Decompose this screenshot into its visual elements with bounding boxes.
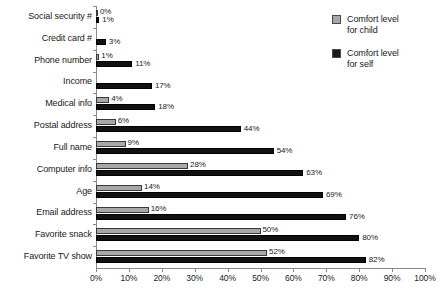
- bar-self: [96, 83, 152, 89]
- bar-value-label-child: 52%: [269, 247, 285, 256]
- x-axis-tick: [195, 269, 196, 272]
- bar-value-label-self: 18%: [158, 102, 174, 111]
- x-axis-tick: [326, 269, 327, 272]
- y-axis-category-label: Phone number: [0, 55, 92, 66]
- bar-self: [96, 126, 241, 132]
- x-axis-tick: [425, 269, 426, 272]
- bar-child: [96, 207, 149, 213]
- bar-value-label-self: 44%: [244, 124, 260, 133]
- bar-self: [96, 192, 323, 198]
- bar-child: [96, 250, 267, 256]
- y-axis-tick: [93, 159, 96, 160]
- bar-value-label-self: 17%: [155, 81, 171, 90]
- bar-value-label-self: 11%: [135, 59, 150, 68]
- bar-value-label-child: 9%: [128, 138, 139, 147]
- bar-self: [96, 235, 359, 241]
- y-axis-category-label: Medical info: [0, 98, 92, 109]
- bar-self: [96, 104, 155, 110]
- bar-value-label-self: 54%: [277, 146, 293, 155]
- y-axis-tick: [93, 72, 96, 73]
- bar-value-label-child: 14%: [144, 182, 160, 191]
- y-axis-category-label: Age: [0, 186, 92, 197]
- y-axis-tick: [93, 115, 96, 116]
- bar-child: [96, 185, 142, 191]
- y-axis-tick: [93, 224, 96, 225]
- y-axis-category-label: Social security #: [0, 11, 92, 22]
- bar-value-label-child: 4%: [111, 94, 122, 103]
- y-axis-category-label: Postal address: [0, 120, 92, 131]
- y-axis-tick: [93, 93, 96, 94]
- bar-group: 28%63%: [96, 159, 425, 181]
- black-swatch-icon: [332, 49, 341, 58]
- bar-value-label-self: 76%: [349, 212, 365, 221]
- bar-self: [96, 17, 99, 23]
- bar-value-label-self: 80%: [362, 233, 378, 242]
- bar-group: 16%76%: [96, 203, 425, 225]
- bar-group: 50%80%: [96, 224, 425, 246]
- bar-self: [96, 148, 274, 154]
- bar-value-label-child: 1%: [101, 51, 112, 60]
- y-axis-category-label: Income: [0, 76, 92, 87]
- legend-label: Comfort levelfor self: [347, 48, 399, 70]
- y-axis-tick: [93, 181, 96, 182]
- y-axis-category-label: Email address: [0, 207, 92, 218]
- bar-group: 4%18%: [96, 93, 425, 115]
- bar-child: [96, 10, 98, 16]
- legend-item[interactable]: Comfort levelfor self: [332, 48, 440, 70]
- bar-chart: Social security #Credit card #Phone numb…: [0, 0, 442, 295]
- x-axis-tick: [228, 269, 229, 272]
- bar-value-label-self: 1%: [102, 15, 113, 24]
- bar-child: [96, 228, 261, 234]
- bar-child: [96, 97, 109, 103]
- bar-value-label-child: 16%: [151, 204, 167, 213]
- x-axis-tick: [129, 269, 130, 272]
- x-axis-tick: [359, 269, 360, 272]
- bar-value-label-child: 28%: [190, 160, 206, 169]
- bar-self: [96, 170, 303, 176]
- y-axis-category-label: Favorite snack: [0, 229, 92, 240]
- bar-self: [96, 257, 366, 263]
- bar-value-label-self: 69%: [326, 190, 342, 199]
- y-axis-category-label: Full name: [0, 142, 92, 153]
- bar-self: [96, 61, 132, 67]
- bar-child: [96, 54, 99, 60]
- bar-group: 9%54%: [96, 137, 425, 159]
- x-axis-tick: [392, 269, 393, 272]
- x-axis-tick: [293, 269, 294, 272]
- y-axis-category-label: Favorite TV show: [0, 251, 92, 262]
- bar-group: 14%69%: [96, 181, 425, 203]
- y-axis-tick: [93, 246, 96, 247]
- y-axis-category-label: Credit card #: [0, 33, 92, 44]
- legend-item[interactable]: Comfort levelfor child: [332, 14, 440, 36]
- bar-child: [96, 141, 126, 147]
- bar-value-label-self: 3%: [109, 37, 120, 46]
- y-axis-tick: [93, 6, 96, 7]
- bar-group: 52%82%: [96, 246, 425, 268]
- y-axis-category-labels: Social security #Credit card #Phone numb…: [0, 6, 92, 268]
- y-axis-category-label: Computer info: [0, 164, 92, 175]
- bar-child: [96, 163, 188, 169]
- bar-value-label-self: 82%: [369, 255, 385, 264]
- bar-value-label-self: 63%: [306, 168, 322, 177]
- y-axis-tick: [93, 28, 96, 29]
- bar-value-label-child: 6%: [118, 116, 129, 125]
- x-axis-tick: [261, 269, 262, 272]
- chart-legend: Comfort levelfor childComfort levelfor s…: [332, 14, 440, 82]
- legend-label: Comfort levelfor child: [347, 14, 399, 36]
- bar-group: 6%44%: [96, 115, 425, 137]
- bar-self: [96, 39, 106, 45]
- x-axis-ticks: 0%10%20%30%40%50%60%70%80%90%100%: [96, 269, 426, 291]
- x-axis-tick: [162, 269, 163, 272]
- y-axis-tick: [93, 203, 96, 204]
- y-axis-tick: [93, 137, 96, 138]
- bar-child: [96, 119, 116, 125]
- gray-swatch-icon: [332, 15, 341, 24]
- x-axis-tick: [96, 269, 97, 272]
- bar-value-label-child: 50%: [263, 225, 279, 234]
- x-axis-tick-label: 100%: [405, 273, 442, 283]
- bar-self: [96, 214, 346, 220]
- y-axis-tick: [93, 50, 96, 51]
